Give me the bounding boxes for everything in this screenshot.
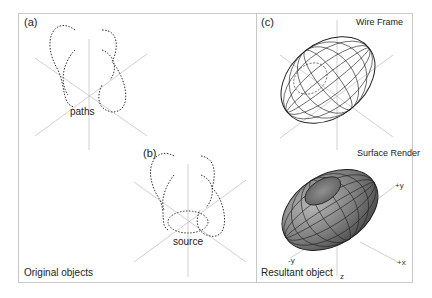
panel-c-tag: (c) xyxy=(261,16,274,28)
surface-render-label: Surface Render xyxy=(357,148,420,158)
caption-resultant-object: Resultant object xyxy=(261,267,333,278)
axis-label-z: z xyxy=(340,272,344,281)
axes-a xyxy=(35,39,147,150)
panel-a-tag: (a) xyxy=(24,16,37,28)
paths-a xyxy=(50,26,126,112)
paths-b xyxy=(151,153,225,236)
panel-b-tag: (b) xyxy=(143,147,156,159)
caption-original-objects: Original objects xyxy=(24,267,93,278)
wire-frame-label: Wire Frame xyxy=(356,17,403,27)
axis-label-x: +x xyxy=(397,258,406,267)
axis-label-y: +y xyxy=(395,181,404,190)
paths-label: paths xyxy=(70,106,94,117)
axis-label-neg-y: -y xyxy=(288,256,295,265)
wire-frame xyxy=(264,19,392,141)
source-label: source xyxy=(173,236,203,247)
surface-render xyxy=(267,153,392,267)
axes-b xyxy=(134,164,246,277)
